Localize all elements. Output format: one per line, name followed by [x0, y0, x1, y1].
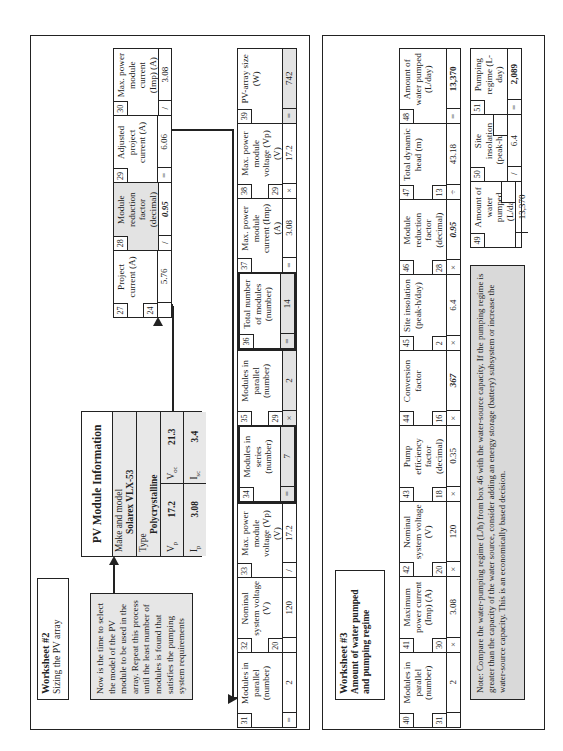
- connector-line: [172, 129, 234, 131]
- box-label: Total number of modules (number): [242, 280, 273, 329]
- box-number: 30: [114, 101, 128, 115]
- box-label: Modules in parallel (number): [240, 662, 271, 704]
- box-value: 6.4: [508, 115, 521, 165]
- worksheet-3-title-box: Worksheet #3 Amount of water pumped and …: [335, 570, 385, 700]
- box-label: Module reduction factor (decimal): [116, 192, 158, 227]
- box-reference: 20: [268, 638, 282, 652]
- box-label: Modules in parallel (number): [402, 662, 433, 704]
- box-number: 28: [114, 236, 128, 250]
- ip-label: I: [189, 549, 199, 552]
- operator: ×: [447, 410, 460, 425]
- voc-cell: Voc 21.3: [161, 412, 183, 484]
- current-row: Ip 3.08 Isc 3.4: [184, 412, 206, 556]
- box-reference: 24: [143, 303, 157, 317]
- box-value: 13,370: [516, 182, 528, 232]
- box-value: 3.08: [447, 577, 460, 636]
- box-label: Total dynamic head (m): [402, 128, 423, 181]
- box-27: 27Project current (A)24 5.76: [114, 250, 171, 317]
- box-label: Max. power module voltage (Vp) (V): [240, 130, 282, 177]
- box-label: Modules in parallel (number): [240, 360, 271, 402]
- operator: =: [283, 712, 296, 727]
- worksheet-2-row-2: 31Modules in parallel (number) =2 32Nomi…: [237, 48, 297, 728]
- box-number: 34: [240, 487, 254, 501]
- operator: ÷: [447, 184, 460, 199]
- box-number: 47: [400, 185, 414, 199]
- worksheet-3-row-2: 49Amount of water pumped (L/day) 13,370 …: [470, 48, 522, 248]
- box-number: 29: [114, 169, 128, 183]
- worksheet-2-title-box: Worksheet #2 Sizing the PV array: [37, 578, 69, 700]
- operator: ×: [283, 183, 296, 198]
- make-model-row: Make and model Solarex VLX-53: [113, 412, 137, 556]
- box-50: 50Site insolation (peak-h/day) /6.4: [471, 114, 521, 180]
- box-reference: 20: [432, 562, 446, 576]
- box-label: Maximum power current (Imp) (A): [402, 582, 433, 633]
- note-text: Note: Compare the water-pumping regime (…: [475, 273, 507, 693]
- box-value: 3.08: [159, 49, 171, 100]
- operator: /: [508, 166, 521, 181]
- box-reference: 18: [432, 487, 446, 501]
- isc-value: 3.4: [190, 416, 200, 458]
- box-value: 120: [283, 578, 296, 637]
- box-label: Conversion factor: [402, 360, 423, 402]
- operator: ×: [447, 259, 460, 274]
- worksheet-2-title: Worksheet #2: [40, 584, 52, 694]
- operator: /: [159, 235, 171, 250]
- box-reference: 30: [432, 638, 446, 652]
- operator: ×: [447, 486, 460, 501]
- arrow-head-icon: [109, 556, 119, 565]
- box-number: 31: [238, 713, 252, 727]
- box-38: 38Max. power module voltage (Vp) (V)29 ×…: [238, 123, 296, 198]
- box-reference: 13: [432, 185, 446, 199]
- box-number: 50: [471, 167, 485, 181]
- box-label: Pump efficiency factor (decimal): [402, 438, 444, 475]
- box-value: 6.06: [158, 116, 171, 167]
- type-row: Type Polycrystalline: [137, 412, 161, 556]
- isc-sub: sc: [194, 471, 201, 476]
- box-number: 43: [400, 487, 414, 501]
- box-31: 31Modules in parallel (number) =2: [238, 652, 296, 727]
- box-label: Amount of water pumped (L/day): [402, 53, 433, 105]
- box-number: 48: [400, 110, 414, 124]
- box-number: 40: [400, 713, 414, 727]
- box-33: 33Max. power module voltage (Vp) (V) /17…: [238, 503, 296, 578]
- box-36: 36Total number of modules (number) =14: [238, 272, 296, 350]
- box-41: 41Maximum power current (Imp) (A)30 ×3.0…: [400, 576, 460, 651]
- isc-label: I: [189, 476, 199, 479]
- box-40: 40Modules in parallel (number)31 2: [400, 652, 460, 727]
- box-value: 2: [283, 351, 296, 410]
- make-model-value: Solarex VLX-53: [125, 416, 136, 552]
- box-value: 13,370: [447, 49, 460, 108]
- ip-cell: Ip 3.08: [184, 484, 206, 557]
- operator: ×: [447, 561, 460, 576]
- box-28: 28Module reduction factor (decimal) /0.9…: [114, 183, 171, 250]
- voc-label: V: [166, 473, 176, 480]
- box-label: Module reduction factor (decimal): [402, 213, 444, 248]
- box-number: 45: [400, 336, 414, 350]
- connector-line: [172, 306, 174, 411]
- ip-sub: p: [194, 546, 201, 549]
- box-number: 49: [471, 233, 485, 247]
- operator: [283, 637, 296, 652]
- operator: [516, 232, 528, 247]
- voc-value: 21.3: [167, 416, 177, 458]
- box-number: 46: [400, 260, 414, 274]
- operator: ×: [447, 637, 460, 652]
- vp-sub: p: [171, 542, 178, 545]
- box-35: 35Modules in parallel (number)29 ×2: [238, 350, 296, 425]
- box-32: 32Nominal system voltage (V)20 120: [238, 577, 296, 652]
- box-label: Modules in series (number): [242, 436, 273, 478]
- box-value: 0.35: [447, 426, 460, 485]
- isc-cell: Isc 3.4: [184, 412, 206, 484]
- box-29: 29Adjusted project current (A) =6.06: [114, 115, 171, 182]
- box-reference-blank: [501, 182, 515, 203]
- box-label: Nominal system voltage (V): [240, 581, 271, 636]
- box-value: 120: [447, 502, 460, 561]
- box-number: 32: [238, 638, 252, 652]
- pv-module-info-box: PV Module Information Make and model Sol…: [81, 411, 202, 557]
- box-value: 43.18: [447, 125, 460, 184]
- box-value: 2,089: [508, 49, 521, 99]
- vp-label: V: [166, 545, 176, 552]
- box-value: 3.08: [283, 199, 296, 258]
- operator: /: [283, 562, 296, 577]
- box-reference: 2: [432, 336, 446, 350]
